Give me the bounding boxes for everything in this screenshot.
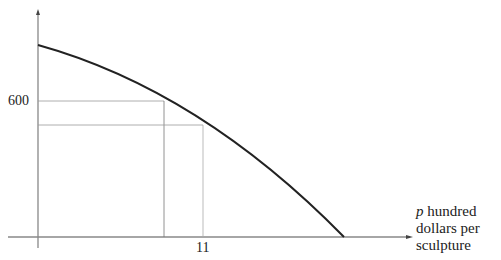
x-axis-label-line3: sculpture	[416, 237, 480, 254]
demand-curve	[38, 45, 344, 237]
x-axis-variable: p	[416, 203, 424, 219]
x-axis-label: p hundred dollars per sculpture	[416, 203, 480, 254]
x-axis-label-line2: dollars per	[416, 220, 480, 237]
x-tick-label-11: 11	[196, 240, 209, 256]
y-axis-arrow-icon	[36, 9, 40, 15]
x-axis-arrow-icon	[406, 235, 413, 239]
y-tick-label-600: 600	[8, 93, 29, 109]
x-axis-label-line1: hundred	[424, 203, 477, 219]
